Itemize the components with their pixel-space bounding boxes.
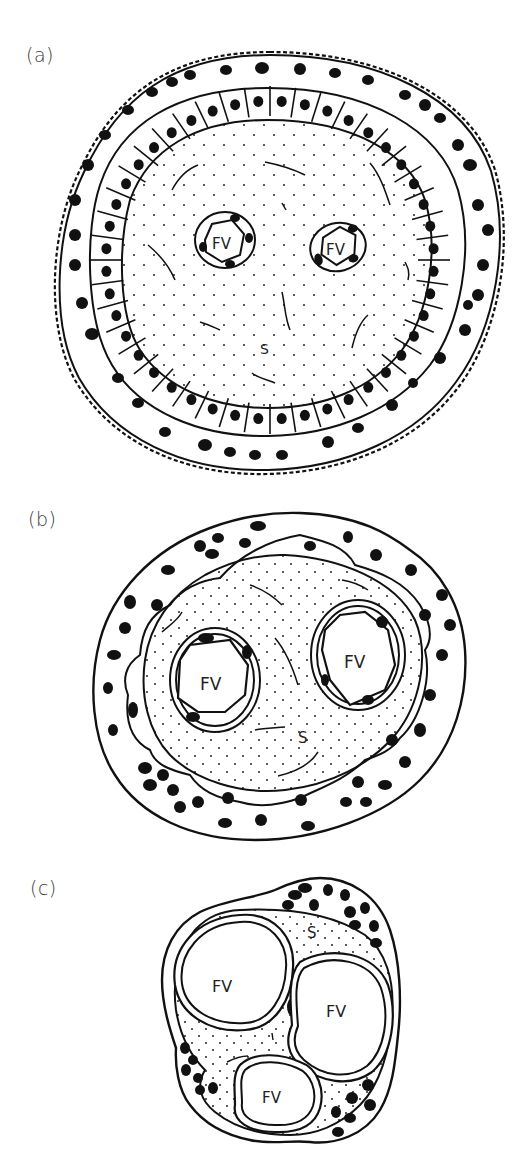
panel-b: (b) (0, 480, 528, 860)
fv-label-c-bottom: FV (262, 1089, 282, 1107)
fv-label-b-right: FV (344, 652, 366, 672)
panel-a: (a) (0, 0, 528, 490)
fv-label-a-right: FV (326, 241, 346, 259)
stroma-label-a: S (260, 341, 269, 357)
fv-label-c-right: FV (326, 1002, 346, 1021)
panel-c-drawing: FV FV FV S (0, 850, 528, 1175)
stroma-fiber (272, 1033, 273, 1040)
fv-label-a-left: FV (212, 235, 232, 253)
stroma-label-b: S (298, 729, 308, 747)
stroma-label-c: S (307, 924, 317, 942)
panel-b-drawing: FV FV S (0, 480, 528, 860)
panel-a-drawing: FV FV S (0, 0, 528, 490)
fv-label-c-top-left: FV (212, 977, 232, 996)
panel-c: (c) FV (0, 850, 528, 1175)
fv-label-b-left: FV (200, 674, 222, 694)
